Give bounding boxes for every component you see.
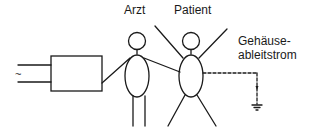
leakage-current-diagram: ~ Arzt Patient Gehäuse- ableitstrom (0, 0, 310, 134)
diagram-canvas (0, 0, 310, 134)
doctor-head (129, 33, 146, 50)
patient-body (179, 55, 203, 97)
ac-symbol: ~ (15, 67, 21, 81)
doctor-figure (102, 33, 180, 127)
patient-figure (155, 26, 227, 126)
patient-label: Patient (174, 3, 211, 17)
leakage-path (203, 73, 257, 104)
leakage-label-line2: ableitstrom (238, 48, 297, 62)
leakage-current-label: Gehäuse- ableitstrom (238, 34, 297, 62)
doctor-label: Arzt (124, 3, 145, 17)
doctor-body (125, 55, 149, 97)
device-box (51, 56, 102, 91)
leakage-label-line1: Gehäuse- (238, 34, 297, 48)
current-arrow-icon (256, 86, 259, 90)
ground-icon (252, 105, 262, 110)
patient-head (183, 33, 200, 50)
supply-wires (18, 65, 51, 82)
